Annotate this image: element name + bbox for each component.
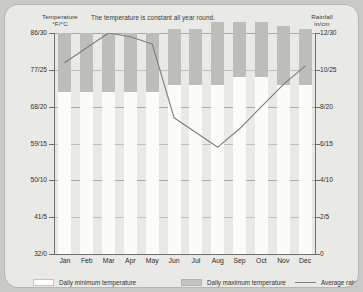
axis-tick [49,70,54,71]
month-label-feb: Feb [76,257,98,264]
axis-tick-label: 77/25 [5,66,47,73]
month-label-sep: Sep [229,257,251,264]
chart-legend: Daily minimum temperatureDaily maximum t… [33,277,343,288]
axis-tick-label: 68/20 [5,103,47,110]
legend-item: Daily minimum temperature [33,277,136,287]
left-axis-line [54,33,55,255]
axis-tick-label: 12/30 [320,29,337,36]
rainfall-axis-caption-line1: Rainfall [293,13,351,20]
legend-item: Daily maximum temperature [181,277,286,287]
month-label-dec: Dec [294,257,316,264]
temperature-axis-caption-line2: °F/°C [29,20,91,27]
axis-tick-label: 2/5 [320,213,329,220]
month-label-jan: Jan [54,257,76,264]
month-label-oct: Oct [250,257,272,264]
plot-area [54,33,316,255]
axis-tick [49,144,54,145]
axis-tick-label: 41/5 [5,213,47,220]
month-label-jun: Jun [163,257,185,264]
chart-annotation: The temperature is constant all year rou… [91,14,281,21]
temperature-axis-caption: Temperature °F/°C [29,13,91,28]
legend-label: Daily maximum temperature [207,279,286,286]
axis-tick-label: 4/10 [320,176,333,183]
axis-tick-label: 10/25 [320,66,337,73]
rainfall-axis-caption-line2: in/cm [293,20,351,27]
legend-item: Average rainfall [295,277,359,287]
month-label-mar: Mar [98,257,120,264]
axis-tick [49,180,54,181]
axis-tick [49,254,54,255]
month-label-nov: Nov [272,257,294,264]
temperature-axis-caption-line1: Temperature [29,13,91,20]
legend-label: Daily minimum temperature [59,279,136,286]
max-swatch [181,279,202,286]
month-label-aug: Aug [207,257,229,264]
axis-tick-label: 50/10 [5,176,47,183]
month-label-apr: Apr [119,257,141,264]
axis-tick [49,33,54,34]
axis-tick-label: 59/15 [5,140,47,147]
axis-tick-label: 8/20 [320,103,333,110]
axis-tick-label: 32/0 [5,250,47,257]
month-labels: JanFebMarAprMayJunJulAugSepOctNovDec [54,257,316,268]
axis-tick [49,217,54,218]
baseline-axis [54,254,316,255]
average-rainfall-line [54,33,316,255]
axis-tick-label: 6/15 [320,140,333,147]
month-label-jul: Jul [185,257,207,264]
axis-tick-label: 0 [320,250,324,257]
legend-label: Average rainfall [321,279,359,286]
climate-chart-card: Temperature °F/°C Rainfall in/cm The tem… [4,4,359,288]
rainfall-axis-caption: Rainfall in/cm [293,13,351,28]
axis-tick-label: 86/30 [5,29,47,36]
line-swatch [295,282,316,283]
min-swatch [33,279,54,286]
month-label-may: May [141,257,163,264]
axis-tick [49,107,54,108]
